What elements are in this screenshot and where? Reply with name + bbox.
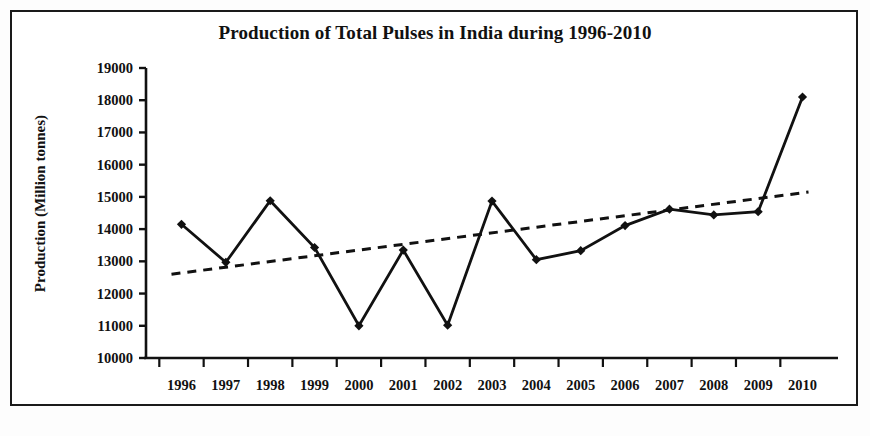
x-tick-label-2002: 2002 — [433, 377, 462, 393]
x-tick-label-1996: 1996 — [167, 377, 196, 393]
x-axis-tick-labels: 1996199719981999200020012002200320042005… — [167, 377, 817, 393]
y-tick-label-10000: 10000 — [97, 350, 133, 366]
y-tick-label-19000: 19000 — [97, 60, 133, 76]
x-tick-label-2008: 2008 — [699, 377, 728, 393]
x-tick-label-1999: 1999 — [300, 377, 329, 393]
x-tick-label-1997: 1997 — [211, 377, 240, 393]
chart-figure: Production of Total Pulses in India duri… — [0, 0, 870, 436]
data-point-markers — [177, 92, 807, 330]
plot-area: 1996199719981999200020012002200320042005… — [0, 0, 870, 436]
data-point-2010 — [798, 92, 807, 101]
y-tick-label-18000: 18000 — [97, 92, 133, 108]
y-tick-label-11000: 11000 — [98, 318, 133, 334]
data-point-2009 — [754, 207, 763, 216]
x-tick-label-2000: 2000 — [344, 377, 373, 393]
x-tick-label-2010: 2010 — [788, 377, 817, 393]
data-point-2008 — [709, 210, 718, 219]
x-tick-label-1998: 1998 — [256, 377, 285, 393]
y-axis-tick-labels: 1000011000120001300014000150001600017000… — [97, 60, 133, 366]
y-tick-label-15000: 15000 — [97, 189, 133, 205]
x-tick-label-2007: 2007 — [655, 377, 684, 393]
x-tick-label-2004: 2004 — [522, 377, 551, 393]
y-tick-label-14000: 14000 — [97, 221, 133, 237]
x-axis-ticks — [159, 358, 780, 367]
x-tick-label-2001: 2001 — [389, 377, 418, 393]
x-tick-label-2006: 2006 — [611, 377, 640, 393]
data-point-2007 — [665, 205, 674, 214]
x-tick-label-2005: 2005 — [566, 377, 595, 393]
y-tick-label-16000: 16000 — [97, 157, 133, 173]
x-tick-label-2009: 2009 — [744, 377, 773, 393]
x-tick-label-2003: 2003 — [478, 377, 507, 393]
y-tick-label-12000: 12000 — [97, 286, 133, 302]
production-line-series — [181, 97, 802, 326]
y-tick-label-13000: 13000 — [97, 253, 133, 269]
y-tick-label-17000: 17000 — [97, 124, 133, 140]
